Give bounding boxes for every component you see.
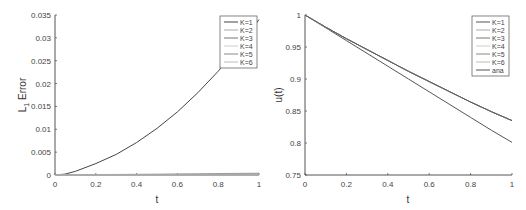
y-tick-label: 0.95 (285, 43, 301, 52)
legend-entry: K=6 (240, 59, 253, 66)
y-tick-label: 0.005 (31, 148, 52, 157)
y-tick-label: 0.02 (35, 80, 51, 89)
legend-entry: K=1 (492, 19, 505, 26)
right-legend: K=1K=2K=3K=4K=5K=6ana (472, 16, 509, 76)
x-tick-label: 0.2 (341, 180, 353, 189)
y-tick-label: 0.85 (285, 107, 301, 116)
x-tick-label: 0.4 (131, 180, 143, 189)
left-legend: K=1K=2K=3K=4K=5K=6 (220, 16, 257, 68)
x-tick-label: 1 (257, 180, 262, 189)
x-tick-label: 0.4 (382, 180, 394, 189)
y-tick-label: 0.015 (31, 102, 52, 111)
x-tick-label: 0.6 (424, 180, 436, 189)
x-tick-label: 0 (53, 180, 58, 189)
legend-entry: K=3 (492, 35, 505, 42)
y-tick-label: 0.75 (285, 171, 301, 180)
legend-entry: K=5 (492, 51, 505, 58)
legend-entry: K=1 (240, 19, 253, 26)
left-ylabel: L1 Error (17, 77, 30, 112)
y-tick-label: 0.035 (31, 11, 52, 20)
y-tick-label: 0.01 (35, 125, 51, 134)
legend-entry: K=3 (240, 35, 253, 42)
legend-entry: K=2 (240, 27, 253, 34)
figure: 00.20.40.60.8100.0050.010.0150.020.0250.… (0, 0, 526, 210)
y-tick-label: 1 (297, 11, 302, 20)
x-tick-label: 0.2 (90, 180, 102, 189)
legend-entry: K=2 (492, 27, 505, 34)
l1-error-plot: 00.20.40.60.8100.0050.010.0150.020.0250.… (17, 11, 262, 205)
x-tick-label: 0.8 (213, 180, 225, 189)
y-tick-label: 0.03 (35, 34, 51, 43)
x-tick-label: 1 (510, 180, 515, 189)
legend-entry: ana (492, 67, 504, 74)
y-tick-label: 0.025 (31, 57, 52, 66)
u-of-t-plot: 00.20.40.60.810.750.80.850.90.951 K=1K=2… (273, 11, 515, 205)
right-xlabel: t (407, 194, 410, 205)
legend-entry: K=4 (240, 43, 253, 50)
legend-entry: K=6 (492, 59, 505, 66)
y-tick-label: 0.9 (290, 75, 302, 84)
y-tick-label: 0 (47, 171, 52, 180)
x-tick-label: 0 (303, 180, 308, 189)
legend-entry: K=4 (492, 43, 505, 50)
legend-entry: K=5 (240, 51, 253, 58)
right-ylabel: u(t) (273, 88, 284, 103)
x-tick-label: 0.8 (465, 180, 477, 189)
x-tick-label: 0.6 (172, 180, 184, 189)
y-tick-label: 0.8 (290, 139, 302, 148)
left-xlabel: t (156, 194, 159, 205)
